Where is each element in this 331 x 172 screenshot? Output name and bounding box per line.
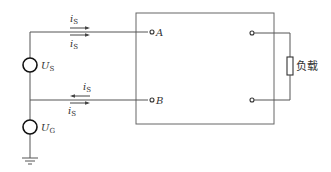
current-label: iS (70, 13, 78, 26)
terminal-b: B (150, 95, 163, 106)
terminal-a-label: A (155, 27, 163, 38)
current-top-upper: iS (70, 13, 90, 30)
circuit-diagram: US UG iS iS iS iS A B (0, 0, 331, 172)
source-circle-icon (23, 120, 37, 134)
ground-icon (22, 158, 38, 164)
terminal-a: A (150, 27, 163, 38)
current-top-lower: iS (70, 33, 90, 51)
output-terminal-bottom-icon (250, 98, 254, 102)
voltage-source-us: US (23, 58, 54, 73)
terminal-node-icon (150, 30, 154, 34)
ug-label: UG (41, 122, 55, 135)
source-circle-icon (23, 58, 37, 72)
us-label: US (41, 60, 54, 73)
current-bottom-upper: iS (70, 81, 91, 98)
voltage-source-ug: UG (23, 120, 55, 135)
load-label: 负载 (296, 59, 318, 73)
current-label: iS (70, 38, 78, 51)
terminal-node-icon (150, 98, 154, 102)
current-label: iS (68, 105, 76, 118)
current-bottom-lower: iS (68, 101, 90, 118)
terminal-b-label: B (155, 95, 163, 106)
load-circuit: 负载 (250, 31, 318, 102)
output-terminal-top-icon (250, 31, 254, 35)
current-label: iS (83, 81, 91, 94)
resistor-icon (287, 57, 293, 75)
